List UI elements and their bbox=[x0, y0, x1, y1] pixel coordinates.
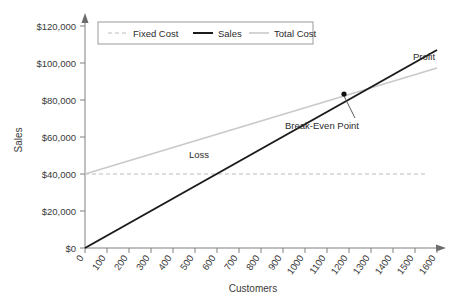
y-axis-title: Sales bbox=[13, 127, 24, 152]
series-line-sales bbox=[85, 50, 437, 248]
y-tick-label: $120,000 bbox=[36, 21, 76, 32]
loss-region-label: Loss bbox=[189, 149, 209, 160]
x-tick-label: 500 bbox=[178, 253, 196, 272]
legend-label-total-cost: Total Cost bbox=[274, 28, 317, 39]
legend-label-sales: Sales bbox=[218, 28, 242, 39]
chart-canvas: $0 $20,000 $40,000 $60,000 $80,000 $100,… bbox=[0, 0, 469, 303]
y-tick-label: $40,000 bbox=[42, 169, 76, 180]
x-tick-label: 1100 bbox=[307, 253, 328, 276]
x-tick-label: 800 bbox=[244, 253, 262, 272]
x-tick-label: 300 bbox=[134, 253, 152, 272]
y-axis-arrow-icon bbox=[82, 13, 89, 23]
x-tick-label: 1500 bbox=[395, 253, 416, 277]
x-axis-ticks bbox=[85, 248, 437, 253]
y-axis-tick-labels: $0 $20,000 $40,000 $60,000 $80,000 $100,… bbox=[36, 21, 76, 254]
y-tick-label: $0 bbox=[65, 243, 76, 254]
break-even-label: Break-Even Point bbox=[285, 120, 359, 131]
x-tick-label: 600 bbox=[200, 253, 218, 272]
x-tick-label: 900 bbox=[266, 253, 284, 272]
break-even-marker-dot bbox=[341, 91, 346, 96]
breakeven-chart-page: $0 $20,000 $40,000 $60,000 $80,000 $100,… bbox=[0, 0, 469, 303]
y-tick-label: $80,000 bbox=[42, 95, 76, 106]
x-axis-tick-labels: 0 100 200 300 400 500 600 700 800 900 10… bbox=[74, 253, 438, 277]
x-axis-title: Customers bbox=[229, 283, 277, 294]
x-tick-label: 100 bbox=[90, 253, 108, 272]
x-tick-label: 1600 bbox=[417, 253, 438, 277]
series-line-total-cost bbox=[85, 68, 437, 174]
x-tick-label: 0 bbox=[74, 253, 86, 264]
x-tick-label: 200 bbox=[112, 253, 130, 272]
x-tick-label: 700 bbox=[222, 253, 240, 272]
y-tick-label: $100,000 bbox=[36, 58, 76, 69]
x-tick-label: 1400 bbox=[373, 253, 394, 277]
y-axis-ticks bbox=[80, 26, 85, 248]
x-tick-label: 1300 bbox=[351, 253, 372, 277]
y-tick-label: $60,000 bbox=[42, 132, 76, 143]
y-tick-label: $20,000 bbox=[42, 206, 76, 217]
x-tick-label: 400 bbox=[156, 253, 174, 272]
profit-region-label: Profit bbox=[413, 51, 436, 62]
chart-legend: Fixed Cost Sales Total Cost bbox=[98, 22, 317, 44]
x-tick-label: 1000 bbox=[285, 253, 306, 277]
legend-label-fixed-cost: Fixed Cost bbox=[133, 28, 179, 39]
x-tick-label: 1200 bbox=[329, 253, 350, 277]
